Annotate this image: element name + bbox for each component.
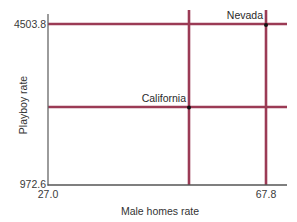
label-nevada: Nevada — [227, 9, 263, 21]
point-california — [187, 106, 191, 110]
y-axis-title: Playboy rate — [17, 76, 29, 135]
y-tick-max: 4503.8 — [14, 18, 46, 30]
chart: Nevada California 4503.8 972.6 27.0 67.8… — [0, 0, 297, 222]
x-axis-title: Male homes rate — [121, 205, 199, 217]
label-california: California — [142, 92, 187, 104]
x-tick-max: 67.8 — [256, 188, 277, 200]
x-tick-min: 27.0 — [38, 188, 59, 200]
point-nevada — [264, 23, 268, 27]
